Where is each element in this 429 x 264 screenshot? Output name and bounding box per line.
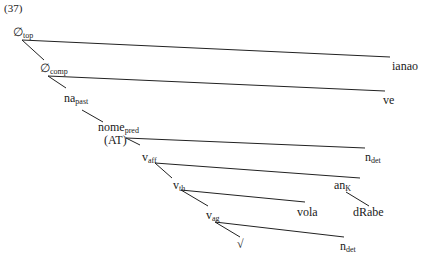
leaf-n-det-1: ndet bbox=[365, 151, 381, 167]
node-top: ∅top bbox=[13, 26, 33, 42]
node-v-th: vth bbox=[173, 179, 185, 195]
node-comp: ∅comp bbox=[40, 62, 68, 78]
leaf-ve: ve bbox=[383, 94, 394, 106]
leaf-n-det-2: ndet bbox=[340, 240, 356, 256]
node-v-aff: vaff bbox=[142, 151, 157, 167]
leaf-drabe: dRabe bbox=[353, 206, 384, 218]
leaf-ianao: ianao bbox=[392, 60, 418, 72]
node-root: √ bbox=[237, 238, 244, 250]
node-v-ag: vag bbox=[206, 209, 220, 225]
node-at: (AT) bbox=[104, 134, 127, 146]
leaf-vola: vola bbox=[297, 206, 318, 218]
node-an-k: anK bbox=[334, 179, 351, 195]
node-na-past: napast bbox=[64, 92, 88, 108]
